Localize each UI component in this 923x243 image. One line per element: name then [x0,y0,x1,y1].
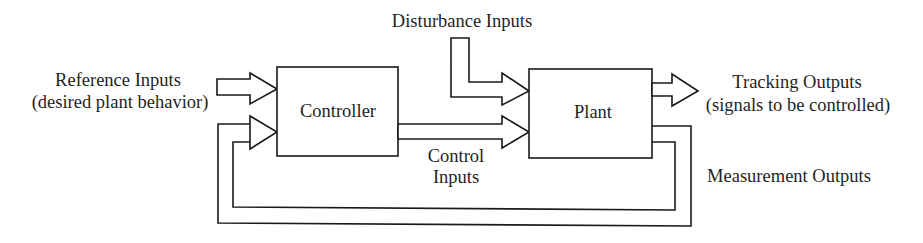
control-inputs-sublabel: Inputs [433,167,479,187]
reference-inputs-sublabel: (desired plant behavior) [32,92,209,113]
control-inputs-label: Control [428,146,485,166]
controller-label: Controller [300,101,376,121]
tracking-outputs-sublabel: (signals to be controlled) [706,95,890,116]
disturbance-input-arrow [451,38,529,105]
plant-label: Plant [574,102,613,122]
reference-input-arrow [217,73,277,104]
tracking-output-arrow [652,74,698,106]
measurement-outputs-label: Measurement Outputs [707,166,871,186]
control-block-diagram: Reference Inputs (desired plant behavior… [0,0,923,243]
tracking-outputs-label: Tracking Outputs [732,72,861,92]
feedback-arrow-head [250,116,277,149]
disturbance-inputs-label: Disturbance Inputs [392,11,532,31]
reference-inputs-label: Reference Inputs [55,70,181,90]
control-inputs-arrow [398,116,529,148]
